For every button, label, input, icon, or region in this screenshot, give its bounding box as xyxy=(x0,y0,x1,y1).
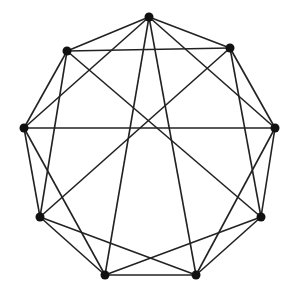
edge-5-7 xyxy=(24,128,105,275)
edge-1-6 xyxy=(40,48,230,217)
vertex-2 xyxy=(271,124,280,133)
edge-4-6 xyxy=(40,217,196,275)
edge-0-4 xyxy=(149,17,196,275)
edge-3-8 xyxy=(67,51,261,217)
graph-diagram xyxy=(0,0,296,304)
edge-1-3 xyxy=(230,48,261,217)
vertex-3 xyxy=(257,213,266,222)
vertex-6 xyxy=(36,213,45,222)
edge-0-7 xyxy=(24,17,149,128)
edge-0-1 xyxy=(149,17,230,48)
edge-8-0 xyxy=(67,17,149,51)
vertex-7 xyxy=(20,124,29,133)
vertex-8 xyxy=(63,47,72,56)
edge-0-2 xyxy=(149,17,275,128)
edge-3-4 xyxy=(196,217,261,275)
vertex-0 xyxy=(145,13,154,22)
edge-3-5 xyxy=(105,217,261,275)
vertex-1 xyxy=(226,44,235,53)
edge-0-5 xyxy=(105,17,149,275)
vertex-5 xyxy=(101,271,110,280)
vertices xyxy=(20,13,280,280)
edge-1-8 xyxy=(67,48,230,51)
vertex-4 xyxy=(192,271,201,280)
edges xyxy=(24,17,275,275)
edge-5-6 xyxy=(40,217,105,275)
